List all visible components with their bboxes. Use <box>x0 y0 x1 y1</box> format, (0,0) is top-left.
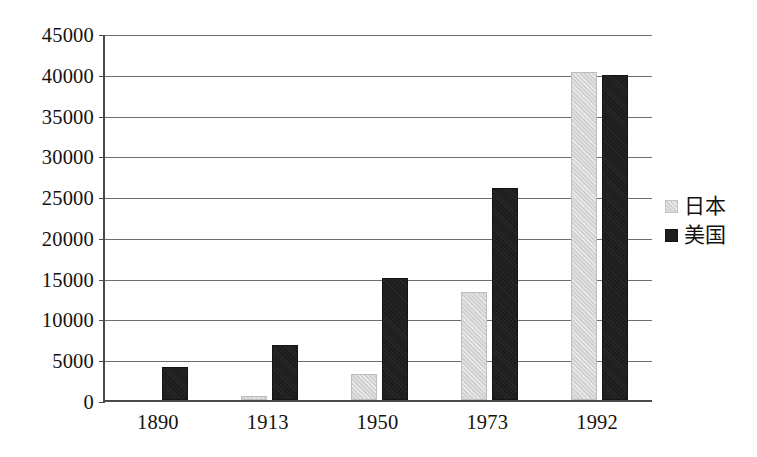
y-axis-tick-label: 35000 <box>0 107 94 128</box>
y-axis-tick-label: 5000 <box>0 351 94 372</box>
bar-1992-japan[interactable] <box>571 72 597 400</box>
y-axis-tick-label: 0 <box>0 392 94 413</box>
bar-1913-japan[interactable] <box>241 396 267 400</box>
bar-1973-japan[interactable] <box>461 292 487 400</box>
y-axis-tick-label: 45000 <box>0 25 94 46</box>
bar-1950-usa[interactable] <box>382 278 408 400</box>
legend-label-japan: 日本 <box>684 196 726 217</box>
bar-1973-usa[interactable] <box>492 188 518 400</box>
x-axis-tick-label: 1992 <box>537 412 657 433</box>
legend-swatch-japan-icon <box>665 200 678 213</box>
gridline <box>105 35 652 36</box>
y-axis-tick-label: 10000 <box>0 310 94 331</box>
x-axis-tick-label: 1913 <box>208 412 328 433</box>
y-axis-tick <box>99 117 105 118</box>
y-axis-tick <box>99 361 105 362</box>
y-axis-tick <box>99 402 105 403</box>
y-axis-tick <box>99 280 105 281</box>
bar-1913-usa[interactable] <box>272 345 298 400</box>
y-axis-tick-label: 20000 <box>0 229 94 250</box>
chart-legend: 日本 美国 <box>665 192 757 250</box>
plot-area <box>103 35 652 402</box>
y-axis-tick <box>99 320 105 321</box>
x-axis-tick-label: 1950 <box>318 412 438 433</box>
legend-swatch-usa-icon <box>665 229 678 242</box>
y-axis-tick <box>99 198 105 199</box>
y-axis-tick-label: 25000 <box>0 188 94 209</box>
y-axis-tick <box>99 35 105 36</box>
y-axis-tick-label: 40000 <box>0 66 94 87</box>
x-axis-tick-label: 1973 <box>427 412 547 433</box>
y-axis-tick <box>99 239 105 240</box>
legend-item-japan[interactable]: 日本 <box>665 192 757 221</box>
y-axis-tick <box>99 76 105 77</box>
y-axis-tick-label: 30000 <box>0 147 94 168</box>
bar-1992-usa[interactable] <box>602 75 628 400</box>
y-axis-tick <box>99 157 105 158</box>
bar-1890-usa[interactable] <box>162 367 188 400</box>
y-axis-tick-label: 15000 <box>0 270 94 291</box>
bar-1950-japan[interactable] <box>351 374 377 400</box>
bar-chart-figure: 0500010000150002000025000300003500040000… <box>0 0 757 457</box>
legend-item-usa[interactable]: 美国 <box>665 221 757 250</box>
x-axis-tick-label: 1890 <box>98 412 218 433</box>
legend-label-usa: 美国 <box>684 225 726 246</box>
